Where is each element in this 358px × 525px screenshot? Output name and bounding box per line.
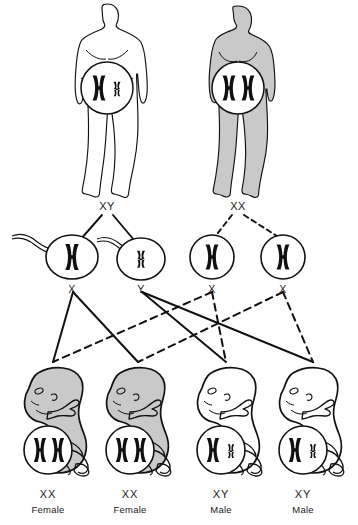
child-4-sex-label: Male — [292, 505, 313, 515]
gamete-sperm-y-label: Y — [137, 284, 144, 295]
father-chromosome-bubble — [81, 62, 133, 114]
child-4-genotype-label: XY — [295, 489, 311, 500]
child-2-sex-label: Female — [114, 505, 147, 515]
child-2-chromosome-bubble — [106, 426, 154, 474]
child-4-chromosome-bubble — [279, 426, 327, 474]
child-3-chromosome-bubble — [197, 426, 245, 474]
mother-chromosome-bubble — [212, 62, 264, 114]
father-genotype-label: XY — [99, 201, 114, 212]
child-1-sex-label: Female — [32, 505, 65, 515]
gamete-egg-x-1 — [190, 235, 234, 279]
mother-genotype-label: XX — [230, 201, 245, 212]
gamete-sperm-x-label: X — [68, 284, 75, 295]
child-3-genotype-label: XY — [213, 489, 229, 500]
gamete-egg-x-2-label: X — [279, 284, 286, 295]
child-1-genotype-label: XX — [40, 489, 56, 500]
child-3-sex-label: Male — [210, 505, 231, 515]
child-2-genotype-label: XX — [122, 489, 138, 500]
sex-determination-svg — [0, 0, 358, 525]
gamete-egg-x-2 — [261, 235, 305, 279]
diagram-canvas — [0, 0, 358, 525]
gamete-egg-x-1-label: X — [208, 284, 215, 295]
child-1-chromosome-bubble — [24, 426, 72, 474]
